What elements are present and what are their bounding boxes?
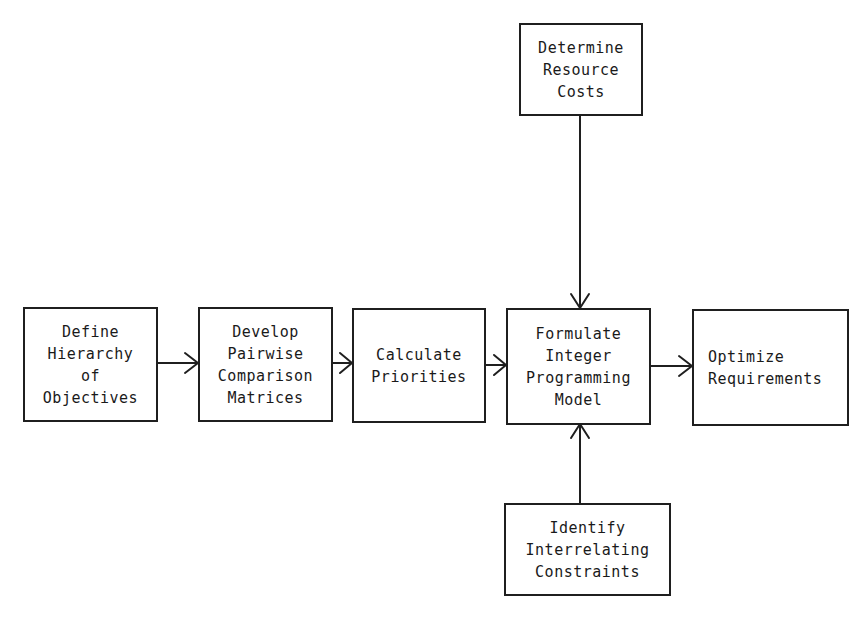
- node-identify-constraints: Identify Interrelating Constraints: [504, 503, 671, 596]
- node-text: Formulate: [536, 323, 622, 345]
- node-text: Requirements: [708, 368, 822, 390]
- node-text: Constraints: [535, 561, 640, 583]
- node-define-hierarchy: Define Hierarchy of Objectives: [23, 307, 158, 422]
- node-optimize-requirements: Optimize Requirements: [692, 309, 849, 426]
- node-text: Calculate: [376, 344, 462, 366]
- node-determine-resource-costs: Determine Resource Costs: [519, 23, 643, 116]
- arrow-formulate-to-optimize: [650, 356, 692, 376]
- node-formulate-ip-model: Formulate Integer Programming Model: [506, 308, 651, 425]
- node-text: Comparison: [218, 365, 313, 387]
- arrow-develop-to-calculate: [332, 353, 352, 373]
- arrow-define-to-develop: [157, 353, 198, 373]
- node-text: Matrices: [227, 387, 303, 409]
- node-text: Priorities: [371, 366, 466, 388]
- node-text: of: [81, 365, 100, 387]
- node-text: Identify: [549, 517, 625, 539]
- node-develop-pairwise: Develop Pairwise Comparison Matrices: [198, 307, 333, 422]
- node-text: Pairwise: [227, 343, 303, 365]
- node-text: Develop: [232, 321, 299, 343]
- node-text: Optimize: [708, 346, 784, 368]
- arrow-costs-to-formulate: [571, 115, 589, 308]
- node-text: Model: [555, 389, 603, 411]
- node-text: Resource: [543, 59, 619, 81]
- node-text: Programming: [526, 367, 631, 389]
- node-text: Interrelating: [526, 539, 650, 561]
- node-text: Objectives: [43, 387, 138, 409]
- arrow-constraints-to-formulate: [571, 424, 589, 503]
- node-text: Determine: [538, 37, 624, 59]
- node-text: Define: [62, 321, 119, 343]
- node-text: Costs: [557, 81, 605, 103]
- node-calculate-priorities: Calculate Priorities: [352, 308, 486, 423]
- node-text: Integer: [545, 345, 612, 367]
- arrow-calculate-to-formulate: [485, 355, 506, 375]
- node-text: Hierarchy: [48, 343, 134, 365]
